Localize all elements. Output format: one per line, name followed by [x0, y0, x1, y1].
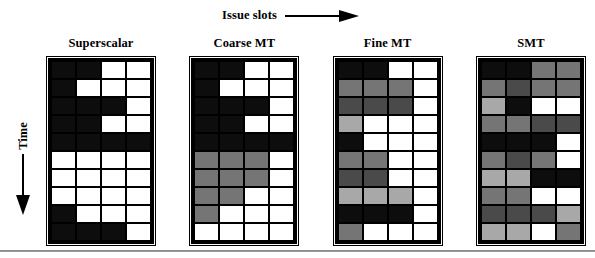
heatmap-cell	[52, 170, 75, 186]
heatmap-cell	[532, 152, 555, 168]
heatmap-cell	[270, 188, 293, 204]
heatmap-row	[195, 224, 293, 240]
heatmap-cell	[127, 62, 150, 78]
heatmap-cell	[482, 206, 505, 222]
heatmap-cell	[220, 98, 243, 114]
heatmap-row	[195, 206, 293, 222]
heatmap-cell	[507, 188, 530, 204]
heatmap-row	[195, 152, 293, 168]
heatmap-row	[195, 170, 293, 186]
heatmap-cell	[102, 170, 125, 186]
heatmap-cell	[102, 134, 125, 150]
heatmap-cell	[532, 98, 555, 114]
heatmap-cell	[245, 170, 268, 186]
heatmap-cell	[270, 224, 293, 240]
heatmap-cell	[102, 116, 125, 132]
heatmap-row	[52, 170, 150, 186]
heatmap-cell	[245, 116, 268, 132]
heatmap-row	[339, 80, 437, 96]
heatmap-cell	[220, 188, 243, 204]
issue-slots-axis: Issue slots	[222, 8, 359, 23]
heatmap-cell	[102, 62, 125, 78]
heatmap-cell	[482, 80, 505, 96]
heatmap-cell	[220, 224, 243, 240]
heatmap-cell	[127, 206, 150, 222]
heatmap-cell	[389, 188, 412, 204]
panel-smt: SMT	[476, 36, 586, 241]
panel-fine-mt: Fine MT	[333, 36, 443, 241]
heatmap-row	[195, 188, 293, 204]
heatmap-cell	[52, 206, 75, 222]
heatmap-cell	[245, 188, 268, 204]
heatmap-row	[195, 62, 293, 78]
heatmap-cell	[557, 80, 580, 96]
panel-superscalar: Superscalar	[46, 36, 156, 241]
heatmap-cell	[220, 206, 243, 222]
heatmap-cell	[339, 134, 362, 150]
heatmap-row	[339, 116, 437, 132]
heatmap-cell	[389, 224, 412, 240]
heatmap-cell	[557, 134, 580, 150]
heatmap-cell	[270, 134, 293, 150]
heatmap-cell	[195, 80, 218, 96]
heatmap-cell	[52, 152, 75, 168]
footer-divider	[0, 250, 595, 252]
heatmap-cell	[77, 224, 100, 240]
heatmap-cell	[482, 98, 505, 114]
heatmap-row	[52, 134, 150, 150]
heatmap-cell	[389, 152, 412, 168]
heatmap-cell	[220, 62, 243, 78]
heatmap-cell	[414, 134, 437, 150]
heatmap-row	[482, 98, 580, 114]
heatmap-cell	[220, 152, 243, 168]
heatmap-cell	[102, 224, 125, 240]
heatmap-cell	[270, 98, 293, 114]
heatmap-row	[482, 224, 580, 240]
arrow-right-icon	[285, 10, 359, 22]
heatmap-cell	[339, 170, 362, 186]
heatmap-cell	[52, 80, 75, 96]
heatmap-row	[482, 62, 580, 78]
heatmap-row	[482, 134, 580, 150]
heatmap-cell	[389, 98, 412, 114]
heatmap-cell	[507, 80, 530, 96]
heatmap-cell	[389, 170, 412, 186]
heatmap-row	[195, 116, 293, 132]
heatmap-grid	[478, 58, 584, 244]
heatmap-row	[339, 98, 437, 114]
heatmap-cell	[414, 98, 437, 114]
heatmap-cell	[414, 152, 437, 168]
heatmap-frame	[333, 56, 443, 246]
heatmap-cell	[482, 62, 505, 78]
heatmap-cell	[270, 206, 293, 222]
heatmap-cell	[77, 80, 100, 96]
heatmap-cell	[482, 152, 505, 168]
heatmap-cell	[532, 80, 555, 96]
heatmap-grid	[48, 58, 154, 244]
heatmap-row	[52, 224, 150, 240]
heatmap-frame	[189, 56, 299, 246]
heatmap-row	[482, 80, 580, 96]
heatmap-cell	[195, 206, 218, 222]
heatmap-cell	[245, 62, 268, 78]
heatmap-row	[195, 134, 293, 150]
heatmap-cell	[245, 98, 268, 114]
heatmap-row	[482, 152, 580, 168]
heatmap-row	[339, 152, 437, 168]
heatmap-cell	[364, 80, 387, 96]
heatmap-cell	[220, 116, 243, 132]
heatmap-cell	[364, 116, 387, 132]
heatmap-cell	[102, 80, 125, 96]
heatmap-cell	[245, 224, 268, 240]
heatmap-cell	[532, 134, 555, 150]
heatmap-cell	[77, 170, 100, 186]
heatmap-cell	[364, 170, 387, 186]
heatmap-cell	[245, 134, 268, 150]
heatmap-row	[482, 206, 580, 222]
heatmap-cell	[270, 152, 293, 168]
heatmap-cell	[102, 98, 125, 114]
heatmap-cell	[270, 80, 293, 96]
heatmap-cell	[127, 170, 150, 186]
heatmap-row	[52, 98, 150, 114]
heatmap-cell	[77, 98, 100, 114]
